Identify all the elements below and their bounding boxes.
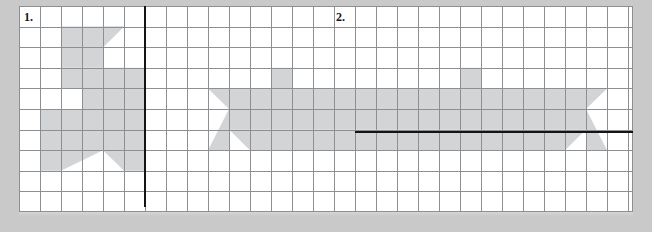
figure-2-boat <box>208 68 607 150</box>
boat-hull-upper <box>229 109 586 130</box>
figure-1-star <box>40 27 145 171</box>
boat-bow-flare <box>208 88 229 109</box>
figures-svg <box>19 6 633 212</box>
problem-label-2: 2. <box>336 11 345 23</box>
page-bottom-shadow <box>19 212 633 216</box>
boat-deck <box>229 88 586 109</box>
boat-stern-taper <box>586 109 607 150</box>
star-mid-band-2 <box>82 88 145 109</box>
mirror-line-horizontal <box>355 131 633 133</box>
star-wide-band <box>40 109 145 150</box>
mirror-line-vertical <box>144 6 146 207</box>
boat-stern-flare <box>586 88 607 109</box>
worksheet-sheet: 1. 2. <box>0 0 652 232</box>
problem-label-1: 1. <box>24 11 33 23</box>
boat-mast-right <box>460 68 481 89</box>
star-lower-leg <box>40 150 145 171</box>
star-upper-diagonal <box>103 27 124 48</box>
star-mid-band <box>61 68 145 89</box>
figures-layer <box>19 6 633 212</box>
boat-mast-left <box>271 68 292 89</box>
boat-bow-taper <box>208 109 229 150</box>
